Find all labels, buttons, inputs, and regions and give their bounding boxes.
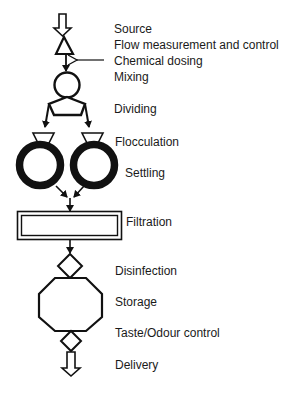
connector — [85, 104, 89, 127]
label-mixing: Mixing — [114, 70, 149, 84]
pentagon-icon — [49, 97, 85, 115]
thick-ring-icon — [20, 145, 61, 186]
thick-ring-icon — [74, 145, 115, 186]
label-flow-measurement: Flow measurement and control — [114, 38, 279, 52]
hollow-down-arrow-icon — [54, 14, 71, 36]
label-settling: Settling — [125, 166, 165, 180]
process-flow-diagram: Source Flow measurement and control Chem… — [0, 0, 303, 393]
connector — [45, 104, 49, 127]
label-chemical-dosing: Chemical dosing — [114, 54, 203, 68]
diamond-icon — [61, 331, 81, 351]
label-filtration: Filtration — [126, 215, 172, 229]
triangle-icon — [56, 37, 73, 54]
hollow-down-arrow-icon — [62, 352, 80, 376]
label-disinfection: Disinfection — [115, 264, 177, 278]
label-storage: Storage — [115, 295, 157, 309]
circle-icon — [55, 73, 80, 98]
label-source: Source — [114, 22, 152, 36]
double-border-rectangle-icon — [18, 212, 122, 240]
label-taste-odour: Taste/Odour control — [115, 326, 220, 340]
connector — [74, 186, 84, 197]
label-delivery: Delivery — [115, 358, 158, 372]
label-dividing: Dividing — [114, 102, 157, 116]
label-flocculation: Flocculation — [115, 135, 179, 149]
connector — [56, 186, 67, 197]
octagon-icon — [39, 278, 102, 331]
diamond-icon — [58, 254, 82, 278]
